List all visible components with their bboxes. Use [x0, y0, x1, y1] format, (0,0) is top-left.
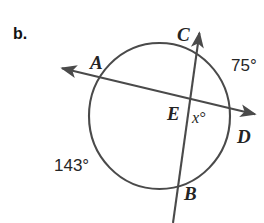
- point-label-a: A: [90, 53, 103, 72]
- point-label-b: B: [184, 184, 197, 203]
- point-label-d: D: [237, 127, 251, 146]
- point-label-c: C: [177, 25, 190, 44]
- arc-label-143: 143°: [54, 157, 89, 174]
- arc-label-75: 75°: [231, 57, 257, 74]
- point-label-e: E: [167, 104, 180, 123]
- angle-label-x: x°: [192, 110, 206, 126]
- geometry-figure: b. A C E D B x° 75° 143°: [0, 0, 264, 223]
- circle-outline: [89, 43, 230, 189]
- item-label-b: b.: [13, 26, 27, 42]
- geometry-canvas: [0, 0, 264, 223]
